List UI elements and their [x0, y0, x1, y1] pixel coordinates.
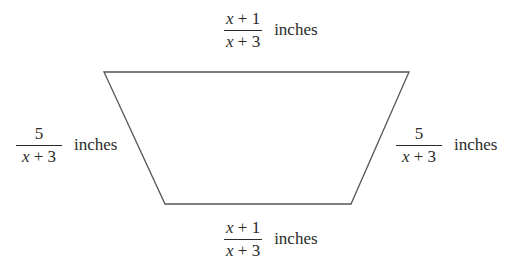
top-fraction: x + 1 x + 3 — [224, 9, 262, 51]
fraction-bar — [16, 145, 62, 146]
bottom-side-label: x + 1 x + 3 inches — [224, 218, 318, 260]
right-side-label: 5 x + 3 inches — [396, 124, 497, 166]
trapezoid-outline — [104, 72, 409, 204]
bottom-unit: inches — [274, 229, 317, 249]
bottom-fraction: x + 1 x + 3 — [224, 218, 262, 260]
top-denominator: x + 3 — [224, 32, 262, 51]
fraction-bar — [396, 145, 442, 146]
fraction-bar — [224, 30, 262, 31]
top-unit: inches — [274, 20, 317, 40]
left-fraction: 5 x + 3 — [16, 124, 62, 166]
bottom-numerator: x + 1 — [224, 218, 262, 237]
bottom-denominator: x + 3 — [224, 241, 262, 260]
top-side-label: x + 1 x + 3 inches — [224, 9, 318, 51]
left-side-label: 5 x + 3 inches — [16, 124, 117, 166]
right-fraction: 5 x + 3 — [396, 124, 442, 166]
right-unit: inches — [454, 135, 497, 155]
top-numerator: x + 1 — [224, 9, 262, 28]
fraction-bar — [224, 239, 262, 240]
right-denominator: x + 3 — [400, 147, 438, 166]
right-numerator: 5 — [413, 124, 426, 143]
left-unit: inches — [74, 135, 117, 155]
left-numerator: 5 — [33, 124, 46, 143]
left-denominator: x + 3 — [20, 147, 58, 166]
